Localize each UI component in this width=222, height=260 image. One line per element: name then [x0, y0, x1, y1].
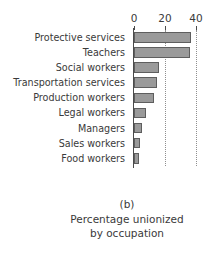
- bar-chart-plot: 0 20 40 Protective services Teachers Soc…: [0, 0, 222, 175]
- bar-row: [134, 105, 214, 120]
- bar: [134, 153, 139, 164]
- caption-line-1: Percentage unionized: [0, 213, 222, 227]
- category-label: Food workers: [0, 151, 129, 166]
- bar: [134, 47, 190, 58]
- x-tick-label-20: 20: [154, 12, 176, 24]
- bar-row: [134, 136, 214, 151]
- figure-caption: (b) Percentage unionized by occupation: [0, 198, 222, 240]
- x-tick-label-40: 40: [185, 12, 207, 24]
- bar-row: [134, 45, 214, 60]
- category-label: Teachers: [0, 45, 129, 60]
- bar: [134, 77, 157, 88]
- caption-line-2: by occupation: [0, 227, 222, 241]
- bar: [134, 138, 140, 149]
- figure-panel-b: 0 20 40 Protective services Teachers Soc…: [0, 0, 222, 260]
- bar-row: [134, 75, 214, 90]
- bar-row: [134, 151, 214, 166]
- x-tick-label-0: 0: [123, 12, 145, 24]
- category-label: Transportation services: [0, 75, 129, 90]
- bar-row: [134, 121, 214, 136]
- category-label: Production workers: [0, 90, 129, 105]
- category-label: Social workers: [0, 60, 129, 75]
- category-label: Legal workers: [0, 105, 129, 120]
- bar: [134, 62, 159, 73]
- bar: [134, 93, 154, 104]
- bar: [134, 108, 146, 119]
- bar-row: [134, 90, 214, 105]
- bar-row: [134, 60, 214, 75]
- panel-letter: (b): [0, 198, 222, 210]
- bar: [134, 123, 142, 134]
- bar-row: [134, 30, 214, 45]
- category-label: Protective services: [0, 30, 129, 45]
- category-label-list: Protective services Teachers Social work…: [0, 30, 129, 166]
- category-label: Managers: [0, 121, 129, 136]
- bar: [134, 32, 191, 43]
- bar-list: [134, 30, 214, 166]
- category-label: Sales workers: [0, 136, 129, 151]
